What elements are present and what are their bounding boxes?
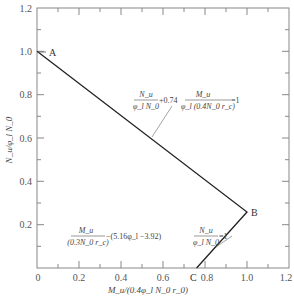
svg-text:φ_l (0.4N_0 r_c): φ_l (0.4N_0 r_c): [181, 102, 235, 111]
y-tick-0.6: 0.6: [20, 133, 33, 144]
x-tick-0.4: 0.4: [115, 272, 128, 283]
point-b-label: B: [251, 207, 258, 218]
x-tick-labels: 0 0.2 0.4 0.6 0.8 1.0 1.2: [36, 272, 293, 283]
equation-bc: M_u (0.3N_0 r_c) −(5.16φ_l −3.92) N_u φ_…: [67, 226, 232, 247]
svg-text:−(5.16φ_l −3.92): −(5.16φ_l −3.92): [106, 232, 162, 241]
equation-ab: N_u φ_l N_0 +0.74 M_u φ_l (0.4N_0 r_c) =…: [133, 90, 240, 137]
x-tick-0.6: 0.6: [157, 272, 170, 283]
y-tick-labels: 1.2 1.0 0.8 0.6 0.4 0.2: [20, 3, 33, 230]
x-tick-1.0: 1.0: [241, 272, 254, 283]
interaction-chart: 1.2 1.0 0.8 0.6 0.4 0.2 0 0.2 0.4 0.6 0.…: [0, 0, 294, 301]
plot-frame: [37, 8, 289, 268]
x-tick-0.2: 0.2: [73, 272, 86, 283]
svg-text:M_u: M_u: [78, 226, 94, 235]
svg-text:φ_l N_0: φ_l N_0: [193, 238, 219, 247]
svg-text:=1: =1: [231, 96, 240, 105]
svg-text:(0.3N_0 r_c): (0.3N_0 r_c): [67, 238, 109, 247]
y-tick-0.8: 0.8: [20, 89, 33, 100]
point-c-label: C: [190, 272, 197, 283]
y-tick-1.0: 1.0: [20, 46, 33, 57]
y-tick-0.4: 0.4: [20, 176, 33, 187]
svg-text:N_u: N_u: [138, 90, 152, 99]
x-tick-0: 0: [36, 272, 41, 283]
x-tick-0.8: 0.8: [201, 272, 214, 283]
point-a-label: A: [49, 47, 57, 58]
y-axis-label: N_u/φ_l N_0: [4, 116, 14, 164]
y-tick-1.2: 1.2: [20, 3, 33, 14]
x-axis-label: M_u/(0.4φ_l N_0 r_0): [107, 285, 188, 295]
x-tick-1.2: 1.2: [280, 272, 293, 283]
svg-text:M_u: M_u: [195, 90, 211, 99]
svg-text:+0.74: +0.74: [159, 96, 178, 105]
svg-text:N_u: N_u: [198, 226, 212, 235]
svg-text:φ_l N_0: φ_l N_0: [133, 102, 159, 111]
y-tick-0.2: 0.2: [20, 219, 33, 230]
